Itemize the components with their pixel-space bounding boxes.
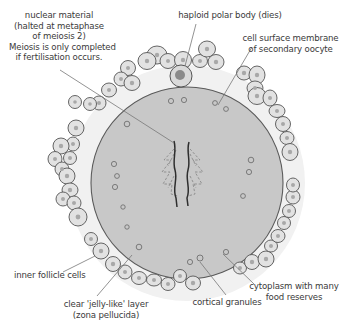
label-line: Meiosis is only completed	[9, 42, 109, 53]
label-polar-body: haploid polar body (dies)	[170, 10, 290, 21]
label-line: inner follicle cells	[14, 270, 90, 281]
label-zona-pellucida: clear 'jelly-like' layer (zona pellucida…	[50, 299, 162, 320]
label-line: haploid polar body (dies)	[170, 10, 290, 21]
label-cytoplasm: cytoplasm with many food reserves	[246, 281, 342, 302]
label-line: of meiosis 2)	[9, 31, 109, 42]
label-line: if fertilisation occurs.	[9, 52, 109, 63]
label-line: food reserves	[246, 292, 342, 303]
label-line: cell surface membrane	[238, 33, 343, 44]
label-nuclear-material: nuclear material (halted at metaphase of…	[9, 10, 109, 63]
label-inner-follicle-cells: inner follicle cells	[14, 270, 90, 281]
label-line: (zona pellucida)	[50, 310, 162, 321]
label-line: of secondary oocyte	[238, 44, 343, 55]
label-line: clear 'jelly-like' layer	[50, 299, 162, 310]
label-cell-membrane: cell surface membrane of secondary oocyt…	[238, 33, 343, 54]
label-line: nuclear material	[9, 10, 109, 21]
label-line: (halted at metaphase	[9, 21, 109, 32]
label-line: cytoplasm with many	[246, 281, 342, 292]
polar-body	[170, 65, 192, 87]
